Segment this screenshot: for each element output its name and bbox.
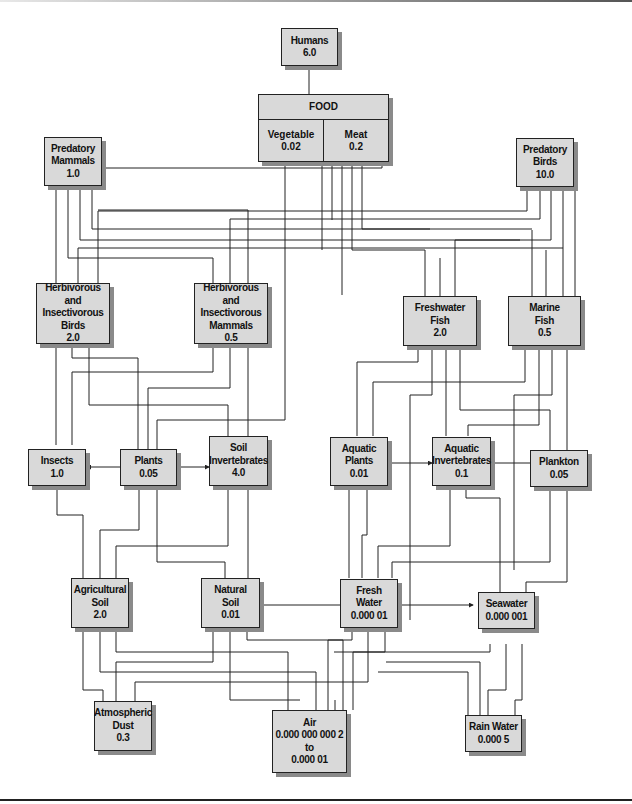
node-agricultural-soil: Agricultural Soil 2.0 [71, 578, 129, 628]
node-label: Humans [291, 35, 329, 48]
node-value: 4.0 [232, 467, 245, 480]
node-label: Insectivorous [200, 307, 261, 320]
node-marine-fish: Marine Fish 0.5 [508, 296, 581, 346]
node-value: 0.01 [221, 609, 239, 622]
node-herbivorous-mammals: Herbivorous and Insectivorous Mammals 0.… [194, 283, 268, 344]
node-label: Dust [112, 720, 133, 733]
node-food: FOOD Vegetable 0.02 Meat 0.2 [258, 94, 389, 162]
node-label: Insects [41, 455, 73, 468]
node-value: 10.0 [536, 169, 554, 182]
node-plankton: Plankton 0.05 [530, 450, 588, 487]
node-label: Birds [61, 320, 85, 333]
node-value: 2.0 [93, 609, 106, 622]
node-label: Plants [134, 455, 162, 468]
node-insects: Insects 1.0 [28, 449, 86, 486]
node-air: Air 0.000 000 000 2 to 0.000 01 [272, 710, 347, 773]
node-value: 1.0 [66, 168, 79, 181]
bottom-rule [0, 799, 632, 801]
node-label: Soil [91, 597, 108, 610]
node-label: Marine [529, 302, 559, 315]
node-rain-water: Rain Water 0.000 5 [465, 715, 522, 752]
node-value: 0.05 [139, 468, 157, 481]
node-label: Aquatic [444, 443, 479, 456]
node-label: Freshwater [415, 302, 465, 315]
node-label: Birds [533, 156, 557, 169]
node-aquatic-plants: Aquatic Plants 0.01 [330, 437, 388, 486]
node-predatory-birds: Predatory Birds 10.0 [516, 138, 574, 187]
node-label: Fish [430, 315, 449, 328]
node-atmospheric-dust: Atmospheric Dust 0.3 [94, 701, 152, 751]
node-value: 0.000 01 [351, 610, 388, 623]
node-label: Soil [222, 597, 239, 610]
food-meat: Meat 0.2 [323, 120, 388, 162]
node-value: 1.0 [50, 468, 63, 481]
node-label: Water [356, 597, 382, 610]
node-label: Vegetable [268, 129, 315, 142]
node-value: 0.5 [538, 327, 551, 340]
node-label: Mammals [209, 320, 252, 333]
node-value: 2.0 [66, 332, 79, 345]
node-label: Meat [345, 129, 368, 142]
node-label: Plants [345, 455, 373, 468]
node-natural-soil: Natural Soil 0.01 [201, 578, 260, 628]
node-soil-invertebrates: Soil Invertebrates 4.0 [209, 436, 268, 486]
node-value: 0.000 000 000 2 [276, 729, 344, 742]
node-label: Plankton [539, 456, 579, 469]
node-value: 0.000 01 [291, 754, 328, 767]
node-label: to [305, 742, 314, 755]
node-label: Invertebrates [432, 455, 491, 468]
node-freshwater-fish: Freshwater Fish 2.0 [403, 296, 477, 346]
node-label: Fish [535, 315, 554, 328]
node-label: Mammals [51, 155, 94, 168]
node-seawater: Seawater 0.000 001 [478, 592, 535, 629]
node-predatory-mammals: Predatory Mammals 1.0 [44, 137, 102, 186]
node-label: Herbivorous and [37, 282, 109, 307]
food-vegetable: Vegetable 0.02 [259, 120, 323, 162]
node-value: 0.5 [224, 332, 237, 345]
node-label: Predatory [523, 144, 567, 157]
node-value: 0.000 001 [486, 611, 528, 624]
node-label: Agricultural [74, 584, 127, 597]
node-label: Seawater [486, 598, 528, 611]
node-label: Invertebrates [209, 455, 268, 468]
node-herbivorous-birds: Herbivorous and Insectivorous Birds 2.0 [36, 283, 110, 344]
node-label: Rain Water [469, 721, 518, 734]
node-aquatic-invertebrates: Aquatic Invertebrates 0.1 [432, 437, 491, 486]
node-label: Natural [214, 584, 246, 597]
node-label: Insectivorous [42, 307, 103, 320]
node-label: Herbivorous and [195, 282, 267, 307]
node-label: Predatory [51, 143, 95, 156]
food-header: FOOD [259, 95, 388, 120]
node-label: Fresh [356, 585, 382, 598]
node-value: 0.02 [281, 141, 300, 154]
node-value: 0.01 [350, 468, 368, 481]
node-humans: Humans 6.0 [281, 28, 338, 66]
node-value: 0.000 5 [478, 734, 509, 747]
node-plants: Plants 0.05 [120, 449, 177, 486]
node-label: Aquatic [342, 443, 377, 456]
node-fresh-water: Fresh Water 0.000 01 [340, 579, 398, 628]
node-value: 0.2 [349, 141, 363, 154]
node-label: Air [303, 717, 316, 730]
node-label: Soil [230, 442, 247, 455]
node-value: 0.3 [116, 732, 129, 745]
node-value: 2.0 [433, 327, 446, 340]
node-value: 0.1 [455, 468, 468, 481]
node-value: 0.05 [550, 469, 568, 482]
node-value: 6.0 [303, 47, 316, 60]
node-label: Atmospheric [94, 707, 152, 720]
